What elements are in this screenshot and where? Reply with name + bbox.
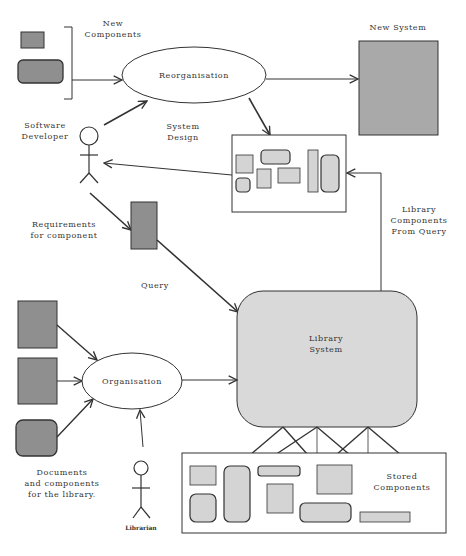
software-developer-label-2: Developer [22,132,69,141]
software-developer-actor[interactable] [80,127,98,183]
library-storage-connectors [250,427,401,455]
new-components-bracket [64,27,72,99]
documents-label-1: Documents [36,468,87,477]
library-system-label-1: Library [309,334,343,343]
system-design-label-1: System [166,122,199,131]
new-system-box[interactable] [359,41,438,135]
library-components-label-3: From Query [391,227,446,236]
stored-components-label-2: Components [374,483,431,492]
organisation-process[interactable]: Organisation [82,353,182,409]
system-design-label-2: Design [167,133,199,142]
arrow-librarian-to-organisation [140,410,143,447]
library-components-label-2: Components [391,216,448,225]
document-item-3[interactable] [16,420,57,456]
arrow-developer-to-query [90,193,131,230]
new-component-small[interactable] [21,32,44,48]
document-item-1[interactable] [18,301,57,348]
library-components-label-1: Library [402,205,436,214]
new-component-rounded[interactable] [18,60,63,83]
component-library-diagram: New Components Reorganisation New System… [0,0,466,556]
stored-components-label-1: Stored [387,472,418,481]
arrow-reorganisation-to-system-design [249,98,270,135]
arrow-doc3-to-organisation [57,399,93,437]
reorganisation-process[interactable]: Reorganisation [122,47,266,103]
arrow-doc1-to-organisation [57,325,97,360]
query-box[interactable] [131,202,157,249]
arrow-system-design-to-developer [104,163,232,175]
organisation-label: Organisation [102,377,162,386]
library-system-label-2: System [309,345,342,354]
reorganisation-label: Reorganisation [159,71,229,80]
documents-label-3: for the library. [28,490,96,499]
librarian-actor[interactable] [132,461,150,518]
query-label: Query [141,281,169,290]
new-system-label: New System [370,23,427,32]
system-design-box[interactable] [232,135,346,212]
stored-components-box[interactable]: Stored Components [182,453,446,533]
document-item-2[interactable] [18,358,57,404]
requirements-label-2: for component [30,231,97,240]
new-components-label-1: New [103,19,123,28]
arrow-developer-to-reorganisation [104,101,147,125]
arrow-library-to-system-design [347,173,381,291]
arrow-query-to-library [157,240,238,312]
new-components-label-2: Components [85,30,142,39]
librarian-label: Librarian [125,524,157,531]
documents-label-2: and components [24,479,99,488]
new-components-group: New Components [18,19,141,99]
requirements-label-1: Requirements [32,220,96,229]
software-developer-label-1: Software [24,121,65,130]
library-system-box[interactable]: Library System [237,291,417,427]
